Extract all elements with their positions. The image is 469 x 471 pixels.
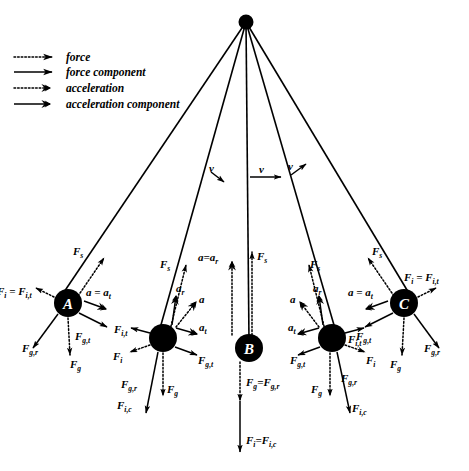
bob-A-label-a: a = at — [86, 286, 112, 301]
bob-B4-vector-ar — [319, 296, 323, 325]
bob-B2-label-at: at — [199, 321, 208, 336]
bob-B-letter: B — [243, 341, 254, 357]
bob-A-label-Fi: Fi = Fi,t — [0, 285, 33, 300]
velocity-right-label: v — [288, 160, 293, 172]
bob-B2-vector-ar — [172, 296, 176, 325]
bob-C-vector-a — [366, 301, 388, 309]
velocity-right: v — [288, 160, 306, 175]
bob-A-group: Fs Fi = Fi,t a = at Fg,t Fg,r Fg A — [0, 245, 112, 373]
legend-row-acceleration-component: acceleration component — [14, 98, 180, 111]
pivot-point — [239, 15, 254, 30]
string-B2 — [159, 22, 246, 332]
bob-C-group: Fs Fi = Fi,t a = at Fg,t Fg,r Fg C — [348, 245, 441, 373]
bob-B2-vector-at — [176, 328, 197, 334]
bob-B2-label-Fgt: Fg,t — [197, 354, 214, 369]
bob-B4-label-a: a — [290, 293, 296, 305]
bob-B4-vector-Fgt — [298, 347, 320, 355]
bob-B2-label-Fit: Fi,t — [113, 323, 128, 338]
bob-C-label-Fg: Fg — [389, 358, 401, 373]
legend-acceleration-label: acceleration — [66, 82, 124, 94]
legend-acceleration-component-label: acceleration component — [66, 98, 180, 111]
bob-A-label-Fs: Fs — [72, 245, 83, 260]
bob-A-vector-Fgt — [79, 313, 107, 327]
bob-B2-label-a: a — [199, 293, 205, 305]
bob-B2-label-Fs: Fs — [159, 258, 170, 273]
bob-B-label-Fs: Fs — [256, 250, 267, 265]
bob-A-vector-Fg — [68, 318, 70, 355]
bob-B2-label-Fi: Fi — [112, 350, 123, 365]
legend-row-force-component: force component — [14, 66, 146, 79]
legend-row-force: force — [14, 51, 90, 64]
velocity-left-label: v — [209, 162, 214, 174]
bob-C-vector-Fi — [418, 288, 436, 297]
velocity-center-label: v — [259, 163, 264, 175]
velocity-center: v — [250, 163, 281, 177]
velocity-left: v — [209, 162, 224, 182]
bob-B4-label-Fi: Fi — [365, 354, 376, 369]
string-C — [246, 22, 410, 295]
bob-B4-label-ar: ar — [313, 282, 323, 297]
legend-force-label: force — [66, 51, 90, 64]
bob-B4 — [318, 324, 346, 352]
bob-C-vector-Fgt — [365, 313, 393, 327]
bob-B4-vector-a — [300, 302, 319, 327]
bob-B-label-Fg: Fg=Fg,r — [245, 376, 280, 391]
bob-A-label-Fg: Fg — [69, 358, 81, 373]
bob-B2-label-Fgr: Fg,r — [120, 378, 138, 393]
bob-B2-vector-a — [176, 302, 196, 327]
bob-B-label-a: a=ar — [198, 251, 219, 266]
bob-B2-label-Fic: Fi,c — [116, 399, 132, 414]
bob-A-vector-a — [84, 301, 106, 309]
bob-B4-label-Fg: Fg — [310, 383, 322, 398]
bob-B4-vector-at — [298, 328, 319, 334]
bob-B4-label-Fgt: Fg,t — [289, 354, 306, 369]
bob-B2-label-ar: ar — [176, 282, 186, 297]
bob-B2-vector-Fgt — [175, 347, 197, 355]
diagram-canvas: force force component acceleration accel… — [0, 0, 469, 471]
bob-C-letter: C — [399, 296, 410, 312]
legend-force-component-label: force component — [66, 66, 146, 79]
bob-B2-vector-Fit — [131, 328, 150, 333]
bob-B-group: Fs a=ar Fg=Fg,r Fi=Fi,c B — [198, 250, 280, 452]
bob-A-letter: A — [62, 296, 73, 312]
bob-C-label-Fgr: Fg,r — [423, 342, 441, 357]
velocity-right-arrow — [291, 164, 306, 175]
bob-B-label-Fi: Fi=Fi,c — [245, 434, 277, 449]
string-B — [246, 22, 249, 342]
bob-B2-vector-Fgr — [146, 352, 158, 413]
bob-B4-label-at: at — [288, 321, 297, 336]
bob-B4-label-Fgr: Fg,r — [340, 372, 358, 387]
bob-A-vector-Fgr — [33, 314, 58, 348]
bob-A-vector-Fi — [36, 288, 54, 297]
bob-B4-label-Fic: Fi,c — [351, 402, 367, 417]
bob-C-label-Fi: Fi = Fi,t — [403, 271, 440, 286]
legend-row-acceleration: acceleration — [14, 82, 124, 94]
bob-C-vector-Fg — [402, 318, 404, 355]
legend: force force component acceleration accel… — [14, 51, 180, 111]
bob-A-label-Fgt: Fg,t — [74, 330, 91, 345]
bob-B2-vector-Fi — [130, 345, 150, 352]
bob-B2 — [149, 324, 177, 352]
pendulum-diagram-figure: force force component acceleration accel… — [0, 0, 469, 471]
bob-C-label-a: a = at — [348, 286, 374, 301]
bob-B2-group: Fs ar a at Fi,t Fi Fg,t Fg Fg,r — [112, 258, 214, 414]
bob-C-vector-Fs — [368, 258, 394, 296]
bob-B2-label-Fg: Fg — [166, 383, 178, 398]
